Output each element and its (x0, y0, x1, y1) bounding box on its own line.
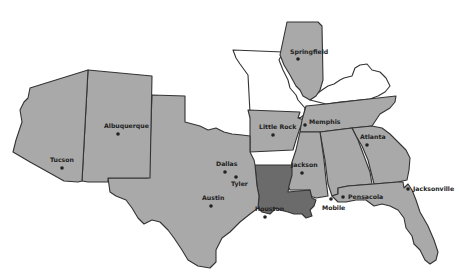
city-dot-icon (263, 215, 267, 219)
city-label: Houston (255, 205, 284, 212)
city-dot-icon (209, 204, 213, 208)
city-dot-icon (60, 166, 64, 170)
city-dot-icon (223, 170, 227, 174)
city-label: Albuquerque (104, 122, 149, 130)
city-label: Jackson (290, 161, 318, 169)
city-dot-icon (406, 187, 410, 191)
city-label: Austin (202, 194, 224, 201)
city-label: Memphis (309, 118, 341, 126)
city-dot-icon (300, 171, 304, 175)
city-label: Springfield (290, 48, 328, 56)
city-dot-icon (234, 175, 238, 179)
city-dot-icon (116, 132, 120, 136)
city-dot-icon (329, 197, 333, 201)
city-dot-icon (365, 143, 369, 147)
city-label: Mobile (322, 204, 345, 211)
city-dot-icon (303, 123, 307, 127)
city-label: Tyler (231, 180, 249, 188)
city-label: Pensacola (348, 193, 383, 200)
city-label: Tucson (50, 156, 74, 163)
city-houston[interactable]: Houston (255, 205, 284, 219)
city-label: Dallas (216, 160, 238, 167)
city-jacksonville[interactable]: Jacksonville (406, 185, 454, 193)
city-dot-icon (296, 57, 300, 61)
state-arizona[interactable] (13, 70, 88, 182)
southern-us-map: Springfield Albuquerque Tucson Little Ro… (0, 0, 459, 280)
city-label: Atlanta (360, 133, 386, 140)
city-dot-icon (271, 133, 275, 137)
city-label: Jacksonville (412, 185, 454, 193)
city-label: Little Rock (259, 123, 297, 130)
city-dot-icon (341, 195, 345, 199)
city-pensacola[interactable]: Pensacola (341, 193, 383, 200)
state-arkansas[interactable] (248, 110, 304, 152)
